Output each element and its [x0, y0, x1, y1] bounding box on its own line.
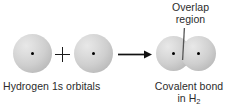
- plus-sign-icon: [55, 47, 70, 62]
- covalent-bond-label-formula-prefix: in H: [177, 92, 196, 104]
- reaction-arrow-icon: [117, 48, 153, 61]
- overlap-region-label: Overlap region: [150, 1, 231, 25]
- covalent-bond-label-formula-subscript: 2: [196, 97, 200, 106]
- covalent-bond-label-line1: Covalent bond: [155, 80, 223, 92]
- overlap-region-label-line1: Overlap: [172, 1, 209, 13]
- covalent-bond-label: Covalent bond in H2: [147, 80, 231, 106]
- hydrogen-1s-orbital-right: [74, 34, 113, 73]
- hydrogen-1s-orbital-left: [13, 34, 52, 73]
- hydrogen-orbitals-label: Hydrogen 1s orbitals: [3, 80, 100, 92]
- covalent-bond-label-line2: in H2: [177, 92, 200, 104]
- overlap-region-label-line2: region: [176, 13, 206, 25]
- overlap-pointer-line: [179, 28, 187, 60]
- orbital-overlap-diagram: Overlap region Hydrogen 1s orbitals Cova…: [0, 0, 231, 107]
